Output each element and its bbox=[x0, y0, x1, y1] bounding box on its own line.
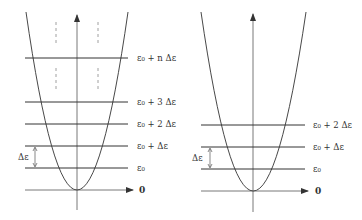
left-diagram: Δε ε₀ + n Δε ε₀ + 3 Δε ε₀ + 2 Δε ε₀ + Δε… bbox=[18, 12, 177, 210]
zero-label: 0 bbox=[139, 185, 145, 195]
level-label: ε₀ + 2 Δε bbox=[313, 120, 353, 130]
level-label: ε₀ bbox=[313, 164, 321, 174]
spacing-label: Δε bbox=[18, 152, 29, 162]
level-label: ε₀ + 2 Δε bbox=[137, 119, 177, 129]
level-label: ε₀ + Δε bbox=[137, 141, 168, 151]
spacing-label: Δε bbox=[192, 153, 203, 163]
right-diagram: Δε ε₀ + 2 Δε ε₀ + Δε ε₀ 0 bbox=[192, 12, 353, 212]
level-label: ε₀ + 3 Δε bbox=[137, 97, 177, 107]
level-label: ε₀ + n Δε bbox=[137, 53, 177, 63]
zero-label: 0 bbox=[315, 186, 321, 196]
level-label: ε₀ bbox=[137, 163, 145, 173]
potential-well-curve bbox=[201, 12, 306, 191]
level-label: ε₀ + Δε bbox=[313, 142, 344, 152]
diagram-canvas: Δε ε₀ + n Δε ε₀ + 3 Δε ε₀ + 2 Δε ε₀ + Δε… bbox=[0, 0, 362, 220]
